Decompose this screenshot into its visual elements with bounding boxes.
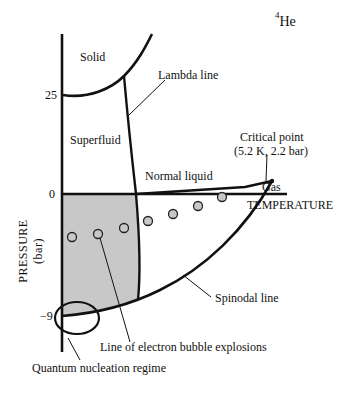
quantum-nucleation-label: Quantum nucleation regime	[32, 362, 166, 374]
critical-leader	[266, 155, 267, 181]
y-axis-label: PRESSURE (bar)	[16, 206, 46, 296]
bubble-marker	[120, 224, 129, 233]
region-solid-label: Solid	[80, 51, 105, 63]
lambda-leader	[128, 80, 165, 116]
x-axis-label: TEMPERATURE	[247, 199, 333, 211]
bubble-marker	[194, 202, 203, 211]
spinodal-line-label: Spinodal line	[215, 292, 279, 304]
bubble-marker	[169, 210, 178, 219]
bubble-marker	[68, 233, 77, 242]
region-gas-label: Gas	[262, 181, 281, 193]
ytick-25: 25	[45, 89, 57, 101]
ytick-0: 0	[49, 188, 55, 200]
bubble-marker	[218, 193, 227, 202]
bubble-marker	[144, 217, 153, 226]
lambda-line-label: Lambda line	[158, 69, 218, 81]
melting-curve	[63, 34, 152, 96]
quantum-nucleation-leader	[68, 338, 80, 360]
shaded-negative-pressure-region	[62, 194, 139, 316]
ytick-neg9: −9	[40, 310, 53, 322]
spinodal-leader	[183, 275, 211, 297]
electron-bubble-label: Line of electron bubble explosions	[100, 341, 267, 353]
helium-4-title: 4He	[275, 12, 296, 30]
region-superfluid-label: Superfluid	[70, 134, 121, 146]
region-normal-liquid-label: Normal liquid	[145, 170, 213, 182]
critical-point-label: Critical point	[240, 131, 304, 143]
critical-point-values: (5.2 K, 2.2 bar)	[234, 145, 308, 157]
bubble-marker	[94, 230, 103, 239]
